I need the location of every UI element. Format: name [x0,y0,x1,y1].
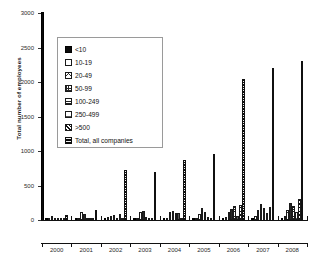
legend-swatch [65,72,72,79]
x-axis-tick-label: 2002 [102,247,130,253]
x-axis-tick-label: 2003 [131,247,159,253]
bar [154,172,156,220]
legend-item: <10 [65,43,162,56]
axis-artifact-column [41,12,44,220]
x-axis-group-separator [248,216,249,221]
x-axis-group-separator [101,216,102,221]
legend-item: 50-99 [65,82,162,95]
x-axis-label-baseline [41,243,307,244]
legend-item-label: Total, all companies [75,137,133,144]
x-axis-group-separator [160,243,161,247]
x-axis-group-separator [71,243,72,247]
x-axis-tick-label: 2001 [72,247,100,253]
x-axis-group-separator [278,243,279,247]
legend-item-label: >500 [75,124,90,131]
x-axis-group-separator [160,216,161,221]
chart-container: Total number of employees 05001000150020… [0,0,313,267]
legend-swatch [65,46,72,53]
y-axis-tick-label: 2500 [21,45,34,51]
x-axis-group-separator [189,216,190,221]
x-axis-group-separator [42,216,43,221]
x-axis-group-separator [219,243,220,247]
bar [242,79,244,220]
legend-item: 250-499 [65,108,162,121]
bar [124,170,126,220]
y-axis-tick: 2000 [0,79,38,85]
legend-item: >500 [65,121,162,134]
legend-swatch [65,124,72,131]
y-axis-tick: 500 [0,183,38,189]
legend-swatch [65,98,72,105]
bottom-caption-fragment [3,259,233,266]
x-axis-group-separator [307,216,308,221]
x-axis-line [41,220,307,221]
x-axis-tick-label: 2007 [249,247,277,253]
x-axis-group-separator [130,243,131,247]
y-axis-tick-label: 500 [24,183,34,189]
y-axis-tick-label: 0 [31,217,34,223]
legend-item-label: 50-99 [75,85,92,92]
x-axis-tick-label: 2004 [161,247,189,253]
x-axis-group-separator [189,243,190,247]
legend-item: 100-249 [65,95,162,108]
legend-item-label: <10 [75,46,86,53]
legend-item-label: 20-49 [75,72,92,79]
x-axis-tick-label: 2006 [219,247,247,253]
bar [272,68,274,220]
legend-item-label: 100-249 [75,98,99,105]
x-axis-group-separator [130,216,131,221]
x-axis-group-separator [101,243,102,247]
y-axis-tick-label: 1000 [21,148,34,154]
bar [183,160,185,220]
x-axis-group-separator [278,216,279,221]
x-axis-group-separator [71,216,72,221]
y-axis-tick-label: 2000 [21,79,34,85]
y-axis-tick-label: 3000 [21,10,34,16]
legend-item-label: 250-499 [75,111,99,118]
x-axis-group-separator [42,243,43,247]
bar [301,61,303,220]
x-axis-tick-label: 2005 [190,247,218,253]
legend-swatch [65,85,72,92]
x-axis-tick-label: 2000 [43,247,71,253]
y-axis-tick: 1500 [0,114,38,120]
y-axis-tick: 1000 [0,148,38,154]
y-axis-tick-label: 1500 [21,114,34,120]
legend-swatch [65,111,72,118]
y-axis-tick: 2500 [0,45,38,51]
x-axis-group-separator [248,243,249,247]
chart-legend: <1010-1920-4950-99100-249250-499>500Tota… [57,37,163,148]
x-axis-group-separator [219,216,220,221]
y-axis-tick: 3000 [0,10,38,16]
legend-item: Total, all companies [65,134,162,147]
legend-swatch [65,137,72,144]
x-axis-tick-label: 2008 [278,247,306,253]
bar [95,210,97,220]
legend-item-label: 10-19 [75,59,92,66]
bar [213,154,215,220]
legend-swatch [65,59,72,66]
legend-item: 10-19 [65,56,162,69]
y-axis-tick: 0 [0,217,38,223]
x-axis-group-separator [307,243,308,247]
legend-item: 20-49 [65,69,162,82]
